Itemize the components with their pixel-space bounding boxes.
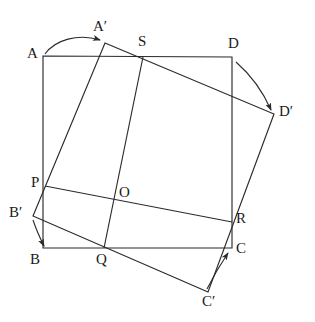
vertex-label-s: S (138, 34, 146, 49)
vertex-label-a: A (27, 46, 38, 61)
vertex-label-d: D (228, 36, 239, 51)
segment-qs (104, 57, 143, 248)
vertex-label-b: B (30, 252, 40, 267)
vertex-label-a-prime: A′ (93, 19, 107, 34)
vertex-label-o: O (119, 185, 130, 200)
figure-canvas (0, 0, 315, 322)
vertex-label-c: C (236, 241, 246, 256)
rotation-arrow-c-prime-to-c (207, 253, 228, 289)
vertex-label-r: R (236, 211, 246, 226)
vertex-label-p: P (31, 175, 39, 190)
segment-pr (45, 186, 232, 222)
vertex-label-c-prime: C′ (202, 294, 215, 309)
vertex-label-q: Q (96, 252, 107, 267)
geometry-figure: A A′ S D D′ P O R B′ B Q C C′ (0, 0, 315, 322)
rotation-arrow-d-to-d-prime (236, 62, 271, 110)
vertex-label-d-prime: D′ (279, 104, 293, 119)
rotation-arrow-a-to-a-prime (45, 37, 100, 54)
rotation-arrow-b-prime-to-b (33, 220, 44, 246)
vertex-label-b-prime: B′ (9, 205, 22, 220)
